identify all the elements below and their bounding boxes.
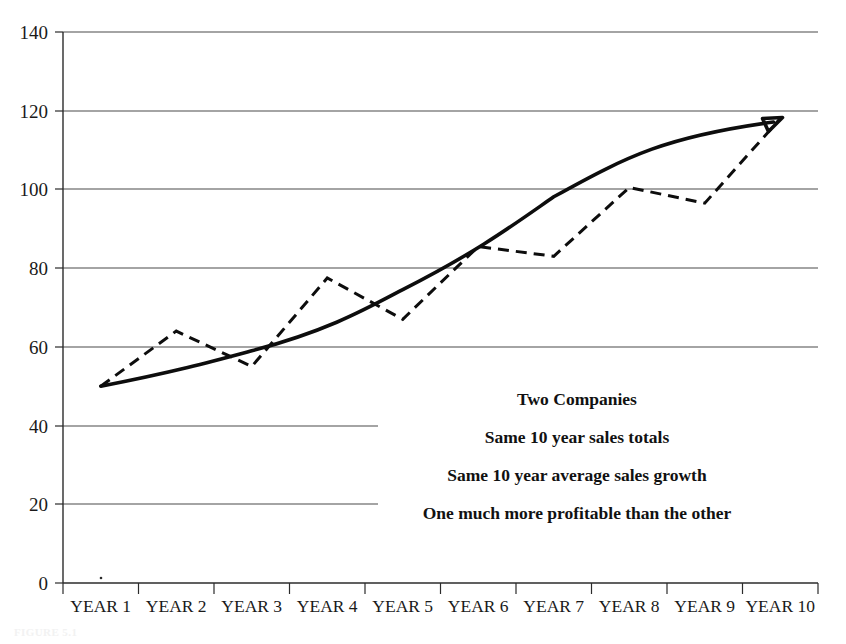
x-tick-label: YEAR 6 — [448, 596, 509, 616]
x-tick-label: YEAR 7 — [523, 596, 584, 616]
y-tick-label: 60 — [29, 337, 48, 358]
annotation-line-3: Same 10 year average sales growth — [447, 465, 707, 485]
figure-caption: FIGURE 5.1 — [14, 626, 77, 638]
y-tick-label: 140 — [20, 22, 49, 43]
x-tick-label: YEAR 9 — [674, 596, 735, 616]
x-tick-label: YEAR 4 — [297, 596, 358, 616]
x-tick-label: YEAR 8 — [599, 596, 660, 616]
annotation-block: Two Companies Same 10 year sales totals … — [423, 389, 732, 523]
x-tick-label: YEAR 5 — [372, 596, 433, 616]
y-tick-marks — [55, 32, 63, 583]
x-axis-tick-labels: YEAR 1 YEAR 2 YEAR 3 YEAR 4 YEAR 5 YEAR … — [70, 596, 815, 616]
x-tick-label: YEAR 2 — [146, 596, 207, 616]
x-tick-label: YEAR 10 — [745, 596, 815, 616]
y-tick-label: 80 — [29, 258, 48, 279]
annotation-line-4: One much more profitable than the other — [423, 503, 732, 523]
annotation-line-2: Same 10 year sales totals — [485, 427, 670, 447]
y-tick-label: 40 — [29, 416, 48, 437]
trend-arrowhead — [763, 118, 783, 132]
y-tick-label: 120 — [20, 101, 49, 122]
y-tick-label: 100 — [20, 179, 49, 200]
y-axis-tick-labels: 140 120 100 80 60 40 20 0 — [20, 22, 49, 594]
series-dashed-volatile — [101, 119, 781, 387]
chart-container: 140 120 100 80 60 40 20 0 YEAR 1 YEAR 2 … — [0, 0, 846, 644]
x-tick-label: YEAR 1 — [70, 596, 131, 616]
x-tick-label: YEAR 3 — [221, 596, 282, 616]
y-tick-label: 0 — [39, 573, 49, 594]
x-tick-marks — [63, 583, 818, 594]
scan-artifact-dot — [100, 577, 103, 580]
y-tick-label: 20 — [29, 494, 48, 515]
line-chart: 140 120 100 80 60 40 20 0 YEAR 1 YEAR 2 … — [0, 0, 846, 644]
annotation-line-1: Two Companies — [517, 389, 637, 409]
